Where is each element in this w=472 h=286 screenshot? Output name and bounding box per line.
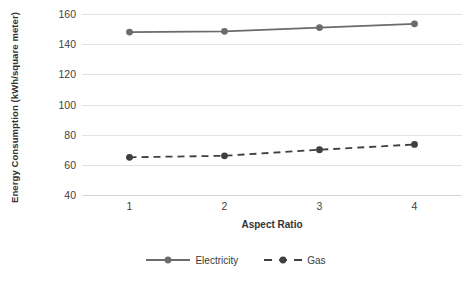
legend-item-gas[interactable]: Gas xyxy=(264,254,325,266)
series-line-electricity xyxy=(130,24,415,32)
legend-item-electricity[interactable]: Electricity xyxy=(146,254,238,266)
y-tick-label-100: 100 xyxy=(58,99,76,111)
x-axis-title: Aspect Ratio xyxy=(82,219,462,230)
legend-swatch-electricity xyxy=(146,254,190,266)
y-axis-title: Energy Consumption (kWh/square meter) xyxy=(0,0,30,215)
y-axis-title-label: Energy Consumption (kWh/square meter) xyxy=(10,12,21,203)
y-tick-label-120: 120 xyxy=(58,68,76,80)
y-tick-label-40: 40 xyxy=(64,189,76,201)
line-chart: Energy Consumption (kWh/square meter) 40… xyxy=(0,0,472,286)
series-line-gas xyxy=(130,144,415,157)
y-tick-label-80: 80 xyxy=(64,129,76,141)
x-axis-tick-labels: 1234 xyxy=(82,198,462,216)
x-tick-label-2: 2 xyxy=(222,200,228,212)
gridline-40 xyxy=(82,195,462,196)
y-axis-tick-labels: 406080100120140160 xyxy=(30,14,82,195)
data-point-electricity-2[interactable] xyxy=(221,28,228,35)
series-layer xyxy=(82,14,462,195)
plot-area xyxy=(82,14,462,195)
legend-swatch-gas xyxy=(264,254,302,266)
y-tick-label-60: 60 xyxy=(64,159,76,171)
data-point-electricity-3[interactable] xyxy=(316,24,323,31)
data-point-gas-3[interactable] xyxy=(316,146,323,153)
legend-label-gas: Gas xyxy=(307,255,325,266)
y-tick-label-160: 160 xyxy=(58,8,76,20)
y-tick-label-140: 140 xyxy=(58,38,76,50)
x-tick-label-3: 3 xyxy=(317,200,323,212)
x-tick-label-1: 1 xyxy=(127,200,133,212)
data-point-electricity-1[interactable] xyxy=(126,29,133,36)
legend-label-electricity: Electricity xyxy=(195,255,238,266)
x-tick-label-4: 4 xyxy=(412,200,418,212)
chart-legend: ElectricityGas xyxy=(0,254,472,266)
data-point-gas-1[interactable] xyxy=(126,154,133,161)
data-point-gas-2[interactable] xyxy=(221,152,228,159)
data-point-gas-4[interactable] xyxy=(411,141,418,148)
data-point-electricity-4[interactable] xyxy=(411,20,418,27)
